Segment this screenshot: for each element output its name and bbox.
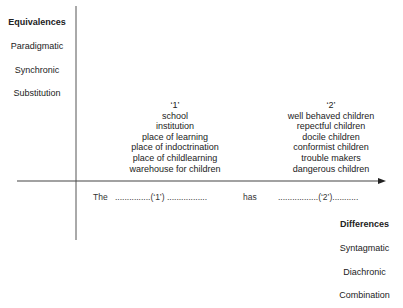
equivalences-title: Equivalences bbox=[0, 17, 74, 27]
column-2: ‘2’ well behaved children repectful chil… bbox=[266, 100, 396, 174]
column-2-header: ‘2’ bbox=[266, 100, 396, 111]
column-2-item: dangerous children bbox=[266, 164, 396, 175]
diachronic-label: Diachronic bbox=[326, 267, 403, 277]
synchronic-label: Synchronic bbox=[0, 65, 74, 75]
sentence-slot-2: .................(‘2’)........... bbox=[278, 192, 358, 202]
column-1-item: school bbox=[110, 111, 240, 122]
sentence-has: has bbox=[243, 192, 257, 202]
column-2-item: conformist children bbox=[266, 142, 396, 153]
column-2-item: repectful children bbox=[266, 121, 396, 132]
column-1-item: place of childlearning bbox=[110, 153, 240, 164]
syntagmatic-label: Syntagmatic bbox=[326, 243, 403, 253]
column-1-item: place of learning bbox=[110, 132, 240, 143]
paradigmatic-label: Paradigmatic bbox=[0, 41, 74, 51]
column-1-item: warehouse for children bbox=[110, 164, 240, 175]
column-1-header: ‘1’ bbox=[110, 100, 240, 111]
combination-label: Combination bbox=[326, 290, 403, 300]
arrow-right-icon bbox=[378, 178, 386, 184]
sentence-slot-1: ...............(‘1’) ................. bbox=[115, 192, 207, 202]
sentence-the: The bbox=[93, 192, 108, 202]
column-1: ‘1’ school institution place of learning… bbox=[110, 100, 240, 174]
column-2-item: well behaved children bbox=[266, 111, 396, 122]
column-1-item: institution bbox=[110, 121, 240, 132]
column-1-item: place of indoctrination bbox=[110, 142, 240, 153]
column-2-item: trouble makers bbox=[266, 153, 396, 164]
substitution-label: Substitution bbox=[0, 88, 74, 98]
column-2-item: docile children bbox=[266, 132, 396, 143]
differences-title: Differences bbox=[326, 219, 403, 229]
